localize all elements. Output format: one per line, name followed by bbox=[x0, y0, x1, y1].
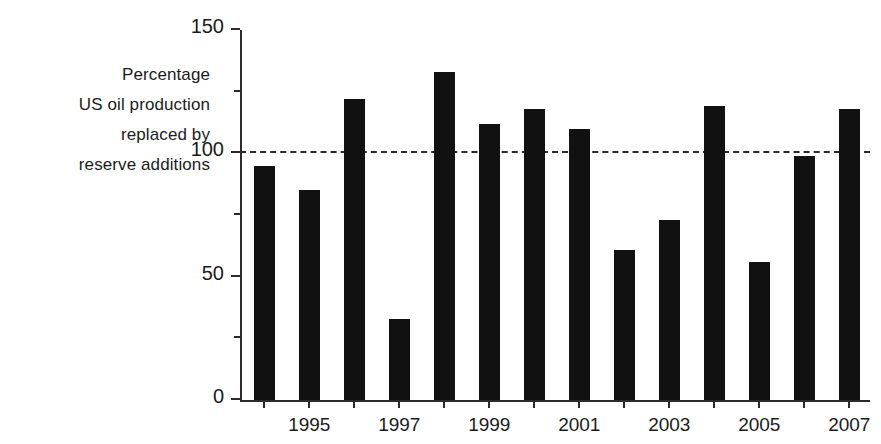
x-tick-label-1999: 1999 bbox=[468, 414, 510, 436]
x-tick-2005 bbox=[758, 402, 760, 408]
y-axis-label-line-1: Percentage bbox=[10, 60, 210, 90]
bar-2002 bbox=[614, 250, 636, 400]
x-axis-line bbox=[240, 400, 870, 402]
x-tick-1996 bbox=[353, 402, 355, 408]
x-tick-1997 bbox=[398, 402, 400, 408]
x-tick-2006 bbox=[803, 402, 805, 408]
y-axis-label-line-4: reserve additions bbox=[10, 150, 210, 180]
x-tick-2007 bbox=[848, 402, 850, 408]
x-tick-1998 bbox=[443, 402, 445, 408]
y-tick-0: 0 bbox=[231, 398, 240, 400]
y-tick-100: 100 bbox=[231, 151, 240, 153]
bar-2000 bbox=[524, 109, 546, 400]
bar-1998 bbox=[434, 72, 456, 400]
chart-figure: Percentage US oil production replaced by… bbox=[0, 0, 881, 444]
bar-2006 bbox=[794, 156, 816, 400]
y-tick-label-150: 150 bbox=[191, 15, 224, 37]
x-tick-1994 bbox=[263, 402, 265, 408]
bar-1995 bbox=[299, 190, 321, 400]
y-tick-label-50: 50 bbox=[202, 262, 224, 284]
bar-1994 bbox=[254, 166, 276, 400]
x-tick-label-2003: 2003 bbox=[648, 414, 690, 436]
bar-2001 bbox=[569, 129, 591, 400]
y-axis-label: Percentage US oil production replaced by… bbox=[10, 60, 210, 180]
x-tick-label-2005: 2005 bbox=[738, 414, 780, 436]
bar-1997 bbox=[389, 319, 411, 400]
bar-2004 bbox=[704, 106, 726, 400]
bar-series bbox=[240, 30, 870, 400]
x-tick-label-1997: 1997 bbox=[378, 414, 420, 436]
bar-1996 bbox=[344, 99, 366, 400]
x-tick-2004 bbox=[713, 402, 715, 408]
bar-2007 bbox=[839, 109, 861, 400]
y-axis-label-line-2: US oil production bbox=[10, 90, 210, 120]
x-tick-2000 bbox=[533, 402, 535, 408]
y-tick-label-100: 100 bbox=[191, 138, 224, 160]
y-axis-label-line-3: replaced by bbox=[10, 120, 210, 150]
y-tick-150: 150 bbox=[231, 28, 240, 30]
x-tick-2001 bbox=[578, 402, 580, 408]
y-tick-50: 50 bbox=[231, 275, 240, 277]
bar-2003 bbox=[659, 220, 681, 400]
x-tick-label-1995: 1995 bbox=[288, 414, 330, 436]
bar-2005 bbox=[749, 262, 771, 400]
plot-area: 050100150 1995199719992001200320052007 bbox=[240, 30, 870, 400]
y-tick-label-0: 0 bbox=[213, 385, 224, 407]
x-tick-2003 bbox=[668, 402, 670, 408]
bar-1999 bbox=[479, 124, 501, 400]
x-tick-1999 bbox=[488, 402, 490, 408]
x-tick-2002 bbox=[623, 402, 625, 408]
x-tick-label-2001: 2001 bbox=[558, 414, 600, 436]
x-tick-label-2007: 2007 bbox=[828, 414, 870, 436]
x-tick-1995 bbox=[308, 402, 310, 408]
